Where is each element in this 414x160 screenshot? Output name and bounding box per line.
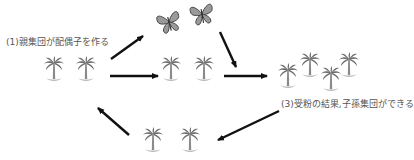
arrow-parent-to-butterflies: [111, 36, 143, 59]
palm-tree-icon: [278, 63, 298, 88]
arrow-offspring-to-next: [218, 111, 279, 140]
arrow-butterflies-to-offspring: [220, 32, 236, 67]
butterfly-icon: [156, 11, 182, 35]
palm-tree-icon: [143, 127, 163, 152]
butterfly-icon: [190, 4, 215, 26]
step1-label: (1)親集団が配偶子を作る: [6, 35, 109, 48]
palm-tree-icon: [194, 56, 214, 81]
parent-population: [44, 56, 96, 81]
palm-tree-icon: [76, 56, 96, 81]
gamete-population: [161, 56, 214, 81]
palm-tree-icon: [339, 52, 359, 77]
offspring-population: [278, 52, 359, 91]
step3-label: (3)受粉の結果,子孫集団ができる: [281, 97, 414, 110]
arrow-next-to-parent: [98, 108, 129, 135]
palm-tree-icon: [300, 52, 320, 77]
palm-tree-icon: [321, 66, 341, 91]
palm-tree-icon: [161, 56, 181, 81]
butterflies: [156, 4, 215, 35]
arrows: [98, 32, 279, 140]
palm-tree-icon: [44, 56, 64, 81]
next-parent-population: [143, 127, 200, 152]
palm-tree-icon: [180, 127, 200, 152]
